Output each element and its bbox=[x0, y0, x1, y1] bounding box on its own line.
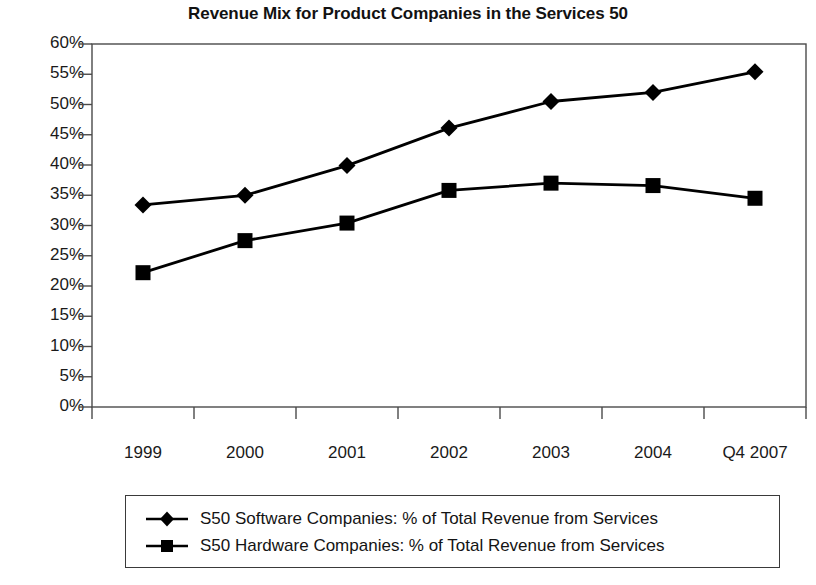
chart-legend: S50 Software Companies: % of Total Reven… bbox=[125, 495, 780, 568]
data-point-marker bbox=[238, 233, 253, 248]
data-point-marker bbox=[645, 84, 662, 101]
data-point-marker bbox=[442, 183, 457, 198]
axis-layer bbox=[79, 44, 806, 419]
x-axis-tick-label: 2001 bbox=[296, 443, 398, 463]
data-point-marker bbox=[543, 93, 560, 110]
data-point-marker bbox=[747, 63, 764, 80]
x-axis-tick-label: 2003 bbox=[500, 443, 602, 463]
x-axis-tick-label: 2004 bbox=[602, 443, 704, 463]
legend-label-hardware: S50 Hardware Companies: % of Total Reven… bbox=[200, 536, 665, 556]
data-point-marker bbox=[441, 120, 458, 137]
data-point-marker bbox=[339, 157, 356, 174]
chart-container: Revenue Mix for Product Companies in the… bbox=[0, 0, 816, 585]
square-marker-icon bbox=[144, 536, 190, 556]
x-axis-tick-label: 2002 bbox=[398, 443, 500, 463]
series-layer bbox=[135, 63, 764, 280]
data-point-marker bbox=[135, 196, 152, 213]
x-axis-tick-label: 2000 bbox=[194, 443, 296, 463]
x-axis-tick-label: 1999 bbox=[92, 443, 194, 463]
data-point-marker bbox=[646, 178, 661, 193]
data-point-marker bbox=[340, 216, 355, 231]
diamond-marker-icon bbox=[144, 509, 190, 529]
legend-label-software: S50 Software Companies: % of Total Reven… bbox=[200, 509, 658, 529]
data-point-marker bbox=[748, 191, 763, 206]
data-point-marker bbox=[237, 187, 254, 204]
legend-item-hardware: S50 Hardware Companies: % of Total Reven… bbox=[144, 533, 665, 559]
plot-frame bbox=[92, 44, 806, 407]
x-axis-tick-label: Q4 2007 bbox=[704, 443, 806, 463]
data-point-marker bbox=[136, 265, 151, 280]
legend-item-software: S50 Software Companies: % of Total Reven… bbox=[144, 506, 658, 532]
data-point-marker bbox=[544, 176, 559, 191]
